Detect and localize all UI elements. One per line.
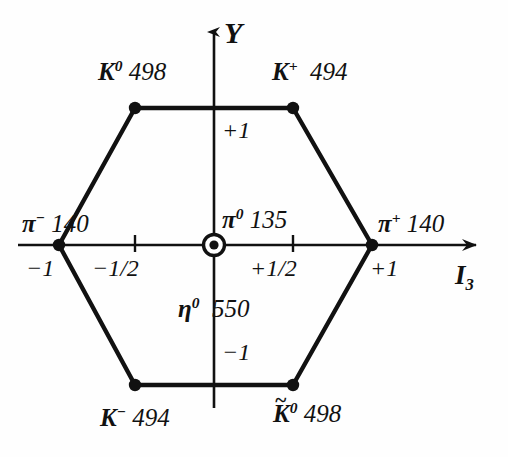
tick-label-x-plus-half: +1/2 <box>250 256 297 280</box>
tick-label-y-minus-1: −1 <box>222 340 250 364</box>
vertex-dot-kplus <box>287 102 299 114</box>
particle-superscript-pi-minus: − <box>36 209 45 226</box>
vertex-dot-kminus <box>129 379 141 391</box>
particle-superscript-k-minus: − <box>117 403 126 420</box>
axis-label-i3-subscript: 3 <box>466 275 474 294</box>
vertex-dot-piplus <box>366 239 378 251</box>
particle-superscript-pi-plus: + <box>392 209 401 226</box>
particle-symbol-pi-minus: π <box>22 210 36 237</box>
particle-label-eta-zero: η0 550 <box>178 295 249 321</box>
particle-symbol-pi-plus: π <box>378 210 392 237</box>
particle-superscript-k-plus: + <box>289 57 298 74</box>
particle-superscript-pi-zero: 0 <box>236 205 244 222</box>
particle-label-k-minus: K− 494 <box>100 404 170 430</box>
axis-label-i3: I3 <box>455 262 474 294</box>
particle-symbol-eta-zero: η <box>178 295 192 322</box>
particle-symbol-k-plus: K <box>272 58 289 85</box>
tilde-icon: ~ <box>275 390 286 411</box>
meson-octet-figure: K0 498 K+ 494 π− 140 π0 135 π+ 140 η0 55… <box>0 0 508 457</box>
particle-label-k-zero-bar: ~K0 498 <box>273 400 341 426</box>
particle-label-k0: K0 498 <box>98 58 166 84</box>
axis-label-i3-base: I <box>455 260 466 290</box>
vertex-dot-k0 <box>129 102 141 114</box>
tick-label-x-plus-1: +1 <box>370 256 398 280</box>
particle-mass-pi-zero: 135 <box>250 206 288 233</box>
particle-superscript-k0: 0 <box>115 57 123 74</box>
tick-label-x-minus-half: −1/2 <box>92 256 139 280</box>
particle-mass-pi-minus: 140 <box>51 210 89 237</box>
tick-label-x-minus-1: −1 <box>26 256 54 280</box>
vertex-dot-k0bar <box>287 379 299 391</box>
vertex-dot-piminus <box>53 239 65 251</box>
particle-mass-k0: 498 <box>129 58 167 85</box>
tick-label-y-plus-1: +1 <box>222 118 250 142</box>
axis-label-y: Y <box>224 18 242 48</box>
particle-mass-pi-plus: 140 <box>407 210 445 237</box>
origin-marker-dot <box>209 240 218 249</box>
particle-mass-k-zero-bar: 498 <box>304 400 342 427</box>
particle-mass-k-minus: 494 <box>132 404 170 431</box>
particle-label-pi-plus: π+ 140 <box>378 210 444 236</box>
antiparticle-tilde-group: ~K <box>273 401 290 426</box>
particle-symbol-k-minus: K <box>100 404 117 431</box>
particle-superscript-eta-zero: 0 <box>192 294 200 311</box>
particle-superscript-k-zero-bar: 0 <box>290 399 298 416</box>
particle-symbol-pi-zero: π <box>222 206 236 233</box>
particle-label-pi-zero: π0 135 <box>222 206 287 232</box>
particle-symbol-k0: K <box>98 58 115 85</box>
particle-label-k-plus: K+ 494 <box>272 58 348 84</box>
particle-mass-k-plus: 494 <box>310 58 348 85</box>
particle-label-pi-minus: π− 140 <box>22 210 89 236</box>
particle-mass-eta-zero: 550 <box>212 295 250 322</box>
